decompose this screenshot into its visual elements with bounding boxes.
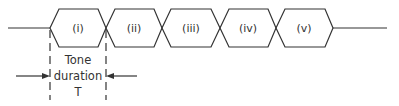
annotation-line-3: T — [73, 85, 82, 99]
annotation-line-1: Tone — [64, 53, 91, 67]
arrow-left-head-icon — [106, 73, 114, 79]
arrow-right-head-icon — [42, 73, 50, 79]
tone-label-4: (iv) — [239, 22, 257, 35]
annotation-line-2: duration — [54, 69, 102, 83]
tone-label-3: (iii) — [182, 22, 200, 35]
tone-label-5: (v) — [296, 22, 311, 35]
tone-timing-diagram: (i) (ii) (iii) (iv) (v) Tone duration T — [0, 0, 399, 106]
tone-label-1: (i) — [72, 22, 84, 35]
tone-label-2: (ii) — [127, 22, 142, 35]
